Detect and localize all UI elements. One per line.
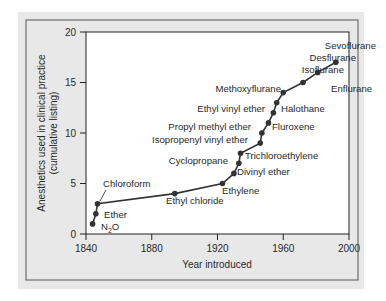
- x-tick-label: 1920: [206, 243, 229, 254]
- data-point-marker: [93, 211, 99, 217]
- data-point-marker: [95, 201, 101, 207]
- point-label: Ethyl chloride: [166, 195, 224, 206]
- y-axis-title-line-2: (cumulative listing): [48, 92, 59, 175]
- y-tick-label: 15: [65, 77, 77, 88]
- point-label: Trichloroethylene: [245, 150, 318, 161]
- point-label: Propyl methyl ether: [168, 121, 251, 132]
- point-label: Ethyl vinyl ether: [197, 103, 266, 114]
- y-tick-label: 0: [70, 229, 76, 240]
- data-point-marker: [238, 150, 244, 156]
- chart: 05101520 18401880192019602000 Year intro…: [0, 0, 386, 301]
- data-point-marker: [271, 110, 277, 116]
- y-tick-label: 20: [65, 27, 77, 38]
- y-tick-label: 10: [65, 128, 77, 139]
- point-label: Divinyl ether: [237, 166, 291, 177]
- data-point-marker: [266, 120, 272, 126]
- point-label: Isopropenyl vinyl ether: [152, 134, 249, 145]
- point-label: Enflurane: [331, 83, 372, 94]
- y-tick-label: 5: [70, 178, 76, 189]
- x-tick-label: 2000: [338, 243, 361, 254]
- point-label: Sevoflurane: [325, 40, 376, 51]
- point-label: Cyclopropane: [169, 155, 228, 166]
- point-label: Desflurane: [310, 52, 356, 63]
- x-tick-label: 1960: [272, 243, 295, 254]
- data-point-marker: [259, 130, 265, 136]
- point-label: Methoxyflurane: [215, 83, 281, 94]
- data-point-marker: [257, 140, 263, 146]
- point-label: Fluroxene: [272, 121, 315, 132]
- data-point-marker: [274, 100, 280, 106]
- data-point-marker: [90, 221, 96, 227]
- point-label: Isoflurane: [302, 64, 344, 75]
- data-point-marker: [300, 80, 306, 86]
- data-point-marker: [231, 171, 237, 177]
- point-label: Ethylene: [222, 185, 259, 196]
- x-tick-label: 1880: [141, 243, 164, 254]
- data-point-marker: [280, 90, 286, 96]
- y-axis-title-line-1: Anesthetics used in clinical practice: [36, 54, 47, 212]
- x-tick-label: 1840: [75, 243, 98, 254]
- point-label: Halothane: [281, 103, 325, 114]
- x-axis-title: Year introduced: [182, 259, 252, 270]
- point-label: Ether: [104, 209, 128, 220]
- point-label: Chloroform: [103, 178, 150, 189]
